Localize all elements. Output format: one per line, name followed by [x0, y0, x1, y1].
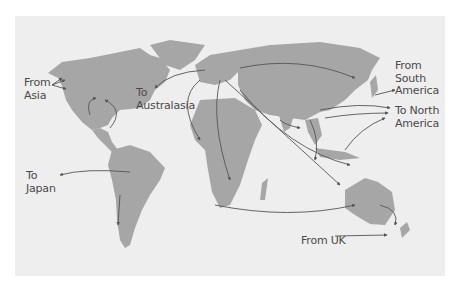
label-to-japan: To Japan	[26, 170, 56, 195]
label-to-north-america: To North America	[395, 105, 439, 130]
label-from-uk: From UK	[301, 235, 346, 248]
australia	[345, 178, 395, 225]
africa	[190, 98, 262, 208]
map-canvas	[15, 16, 445, 276]
world-map	[15, 16, 445, 276]
madagascar	[260, 178, 268, 200]
label-from-south-america: From South America	[395, 60, 439, 98]
central-america	[92, 128, 118, 152]
label-from-asia: From Asia	[24, 77, 50, 102]
landmasses	[48, 40, 410, 248]
label-to-australasia: To Australasia	[136, 87, 195, 112]
india	[278, 112, 295, 132]
southeast-asia	[305, 118, 322, 145]
new-zealand	[400, 222, 410, 238]
south-america	[108, 145, 165, 248]
indonesia	[315, 148, 360, 160]
